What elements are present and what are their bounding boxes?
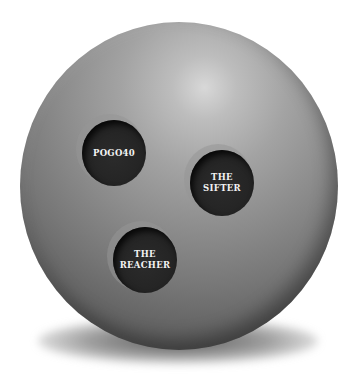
finger-hole-the-sifter: THE SIFTER xyxy=(190,150,254,216)
bowling-ball xyxy=(20,22,338,350)
finger-hole-the-reacher: THE REACHER xyxy=(113,227,177,293)
hole-label-the-sifter: THE SIFTER xyxy=(203,172,241,194)
hole-label-the-reacher: THE REACHER xyxy=(120,249,171,271)
hole-label-pogo40: POGO40 xyxy=(93,148,135,159)
finger-hole-pogo40: POGO40 xyxy=(82,120,146,186)
bowling-ball-illustration: POGO40 THE SIFTER THE REACHER xyxy=(0,0,354,378)
